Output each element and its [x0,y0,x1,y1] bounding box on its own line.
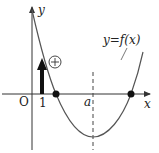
origin-label: O [19,95,29,109]
tick-label-1: 1 [39,96,47,110]
root-dot-2 [128,91,135,98]
curve-label: y=f(x) [102,33,141,47]
function-graph-diagram: y x O 1 a y=f(x) [0,0,159,153]
function-curve [32,10,143,137]
x-axis-label: x [144,97,151,111]
y-axis-label: y [37,3,45,17]
curve-label-leader [121,48,127,60]
tick-label-a: a [84,95,91,109]
root-dot-1 [53,91,60,98]
